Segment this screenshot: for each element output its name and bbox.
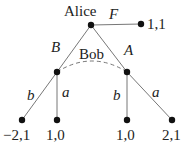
payoff-Ab: 1,0 xyxy=(116,127,135,143)
node-terminal-Ab xyxy=(124,117,130,123)
information-set-arc xyxy=(57,61,127,72)
edge-label-right-b: b xyxy=(113,87,121,103)
edge-label-right-a: a xyxy=(152,84,160,100)
node-terminal-Bb xyxy=(19,117,25,123)
node-bob-right xyxy=(124,69,130,75)
payoff-F: 1,1 xyxy=(147,16,166,32)
node-terminal-Ba xyxy=(54,117,60,123)
info-set-label-bob: Bob xyxy=(79,46,104,62)
payoff-Ba: 1,0 xyxy=(46,127,65,143)
edge-label-left-a: a xyxy=(62,84,70,100)
game-tree: Alice F 1,1 B Bob A b a b a −2,1 1,0 1,0… xyxy=(0,0,190,149)
edge-F xyxy=(91,24,141,25)
payoff-Aa: 2,1 xyxy=(162,127,181,143)
player-label-alice: Alice xyxy=(64,3,97,19)
edge-right-a xyxy=(127,72,172,120)
node-bob-left xyxy=(54,69,60,75)
node-terminal-Aa xyxy=(169,117,175,123)
edge-label-left-b: b xyxy=(27,87,35,103)
edge-label-A: A xyxy=(123,42,134,58)
node-alice xyxy=(88,22,94,28)
payoff-Bb: −2,1 xyxy=(3,127,30,143)
node-terminal-F xyxy=(138,21,144,27)
edge-label-F: F xyxy=(108,6,119,22)
edge-label-B: B xyxy=(51,39,60,55)
